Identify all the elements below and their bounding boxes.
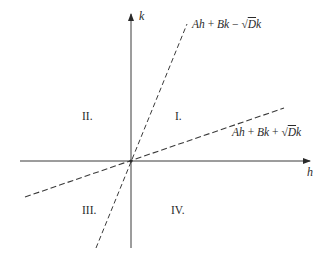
shallow-dashed-line [25, 108, 284, 197]
eq-term: Ah [232, 126, 245, 138]
quadrant-diagram: k h Ah + Bk − √Dk Ah + Bk + √Dk II. I. I… [0, 0, 331, 262]
eq-term: Bk [257, 126, 269, 138]
eq-op: + [245, 126, 257, 138]
shallow-line-label: Ah + Bk + √Dk [232, 127, 301, 139]
region-label-iii: III. [82, 205, 96, 217]
h-axis-label: h [307, 166, 313, 178]
steep-line-label: Ah + Bk − √Dk [192, 19, 261, 31]
eq-term: Ah [192, 18, 205, 30]
k-axis-label: k [139, 10, 144, 22]
eq-term: k [256, 18, 261, 30]
eq-op: + √ [269, 126, 288, 138]
eq-term: k [296, 126, 301, 138]
region-label-iv: IV. [171, 205, 185, 217]
eq-op: + [205, 18, 217, 30]
region-label-ii: II. [82, 111, 93, 123]
eq-op: − √ [229, 18, 248, 30]
eq-radicand: D [288, 126, 296, 138]
eq-radicand: D [248, 18, 256, 30]
origin-point [129, 159, 132, 162]
eq-term: Bk [217, 18, 229, 30]
region-label-i: I. [175, 111, 182, 123]
